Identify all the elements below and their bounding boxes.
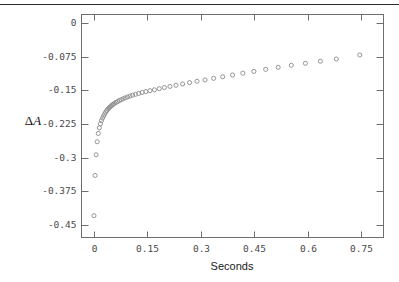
data-point <box>203 78 207 82</box>
x-tick-label: 0.6 <box>300 243 317 254</box>
data-point <box>187 81 191 85</box>
data-point <box>181 82 185 86</box>
data-point <box>303 61 307 65</box>
data-point <box>212 76 216 80</box>
y-axis-title: ΔA <box>25 113 41 128</box>
plot-frame <box>82 15 384 238</box>
data-point <box>195 79 199 83</box>
data-point <box>221 75 225 79</box>
y-axis-ticks <box>82 24 384 226</box>
y-axis-tick-labels: 0-0.075-0.15-0.225-0.3-0.375-0.45 <box>42 17 77 230</box>
x-axis-ticks <box>95 15 362 238</box>
data-point <box>97 126 101 130</box>
data-point <box>94 153 98 157</box>
data-point <box>264 67 268 71</box>
x-tick-label: 0.15 <box>136 243 159 254</box>
data-point <box>318 59 322 63</box>
data-point <box>358 53 362 57</box>
data-point <box>252 69 256 73</box>
x-axis-tick-labels: 00.150.30.450.60.75 <box>92 243 373 254</box>
y-tick-label: -0.375 <box>42 185 76 196</box>
x-tick-label: 0.75 <box>350 243 373 254</box>
data-point <box>162 86 166 90</box>
data-point <box>128 94 132 98</box>
figure-canvas: 00.150.30.450.60.75 0-0.075-0.15-0.225-0… <box>0 0 399 282</box>
data-point <box>148 89 152 93</box>
data-point <box>241 71 245 75</box>
x-axis-title: Seconds <box>211 260 254 272</box>
data-point <box>230 73 234 77</box>
y-tick-label: -0.45 <box>48 219 77 230</box>
data-point <box>95 140 99 144</box>
data-point <box>96 131 100 135</box>
x-tick-label: 0.45 <box>243 243 266 254</box>
y-tick-label: -0.3 <box>54 152 77 163</box>
data-point <box>289 63 293 67</box>
y-tick-label: -0.15 <box>48 84 77 95</box>
data-point <box>168 84 172 88</box>
y-tick-label: -0.075 <box>42 51 76 62</box>
x-tick-label: 0.3 <box>193 243 210 254</box>
y-tick-label: 0 <box>71 17 77 28</box>
x-tick-label: 0 <box>92 243 98 254</box>
data-point <box>276 65 280 69</box>
data-point <box>152 88 156 92</box>
data-point <box>157 87 161 91</box>
data-point <box>93 173 97 177</box>
scatter-plot: 00.150.30.450.60.75 0-0.075-0.15-0.225-0… <box>0 0 399 282</box>
data-point <box>174 83 178 87</box>
data-point <box>92 214 96 218</box>
data-point-series <box>92 53 362 218</box>
y-tick-label: -0.225 <box>42 118 76 129</box>
data-point <box>334 57 338 61</box>
